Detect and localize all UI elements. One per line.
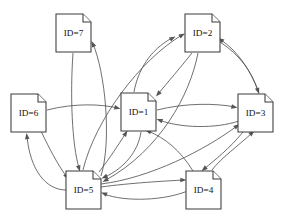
edge-arrowhead [156,117,163,123]
edge-arrowhead [169,34,177,41]
edge-path [212,133,252,170]
edge-path [101,180,184,187]
edge-path [104,190,190,199]
document-fold-corner-icon [213,171,221,179]
node-label: ID=1 [129,107,149,117]
edge-3-to-1 [156,117,239,127]
node-id-6[interactable]: ID=6 [11,94,46,132]
edge-arrowhead [114,105,121,111]
edge-path [148,131,193,171]
graph-svg: ID=7ID=2ID=6ID=1ID=3ID=5ID=4 [0,0,282,222]
node-label: ID=6 [19,108,39,118]
node-id-7[interactable]: ID=7 [56,14,91,52]
edge-5-to-6 [24,133,66,190]
edge-path [27,136,66,190]
edge-3-to-2 [217,36,259,93]
node-id-4[interactable]: ID=4 [186,171,221,209]
edge-path [221,40,259,93]
edge-path [72,53,79,168]
edge-path [41,131,66,176]
node-id-1[interactable]: ID=1 [121,93,156,131]
edge-path [220,42,258,91]
node-label: ID=5 [74,185,94,195]
edge-5-to-7 [89,40,106,176]
edge-2-to-1 [154,53,192,98]
edge-path [157,104,235,110]
node-id-5[interactable]: ID=5 [66,171,101,209]
node-label: ID=2 [193,28,213,38]
node-label: ID=3 [246,108,266,118]
edge-1-to-3 [157,104,238,110]
edge-path [204,132,243,169]
document-fold-corner-icon [93,171,101,179]
edge-arrowhead [24,133,29,140]
edge-4-to-5 [100,190,190,199]
edge-3-to-4 [200,132,243,173]
document-fold-corner-icon [148,93,156,101]
edge-path [47,105,118,110]
node-id-2[interactable]: ID=2 [185,14,220,52]
edge-arrowhead [231,104,238,110]
edge-4-to-3 [212,129,256,170]
node-label: ID=4 [194,185,214,195]
edge-path [105,132,141,177]
node-id-3[interactable]: ID=3 [238,94,273,132]
node-label: ID=7 [64,28,84,38]
edge-path [93,44,106,176]
edge-7-to-5 [72,53,83,172]
edge-path [159,120,239,127]
edge-5-to-1 [99,129,129,172]
nodes-layer: ID=7ID=2ID=6ID=1ID=3ID=5ID=4 [11,14,273,209]
diagram-canvas: ID=7ID=2ID=6ID=1ID=3ID=5ID=4 [0,0,282,222]
edge-2-to-3 [220,42,261,95]
